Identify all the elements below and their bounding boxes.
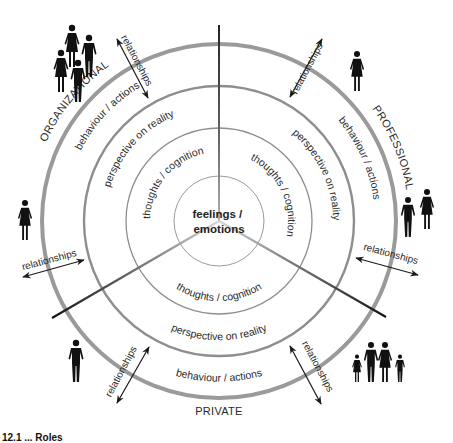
organizational-group-figures <box>54 25 97 102</box>
private-single-figure <box>69 340 84 382</box>
relationship-arrow-bottom-left: relationships <box>103 344 149 403</box>
relationship-label: relationships <box>289 41 325 96</box>
relationship-label: relationships <box>119 33 155 88</box>
center-label-line2: emotions <box>193 223 244 235</box>
professional-pair-figures <box>401 189 434 237</box>
relationship-arrow-left: relationships <box>21 247 84 277</box>
man-figure-icon <box>401 197 415 237</box>
woman-figure-icon <box>54 50 69 92</box>
bottom-behaviour-label: behaviour / actions <box>175 366 263 384</box>
child-figure-icon <box>352 355 362 382</box>
child-figure-icon <box>395 355 405 382</box>
relationship-label: relationships <box>103 344 139 399</box>
right-behaviour-label: behaviour / actions <box>337 114 384 200</box>
segment-label-private: PRIVATE <box>195 405 243 417</box>
woman-figure-icon <box>350 51 364 91</box>
professional-single-figure <box>350 51 364 91</box>
relationship-arrow-upper-right: relationships <box>289 39 325 97</box>
organizational-single-figure <box>18 200 32 240</box>
woman-figure-icon <box>378 342 392 382</box>
divider-lower-left <box>52 221 219 318</box>
bottom-thoughts-label: thoughts / cognition <box>175 280 264 303</box>
man-figure-icon <box>69 340 84 382</box>
woman-figure-icon <box>420 189 434 229</box>
figure-caption: 12.1 ... Roles <box>2 432 63 443</box>
right-thoughts-label: thoughts / cognition <box>249 151 298 238</box>
bottom-perspective-label: perspective on reality <box>170 321 269 342</box>
private-family-figures <box>352 342 405 382</box>
divider-lower-right <box>219 221 386 317</box>
woman-figure-icon <box>18 200 32 240</box>
man-figure-icon <box>364 342 378 382</box>
center-label-line1: feelings / <box>192 208 243 220</box>
relationship-label: relationships <box>300 339 336 394</box>
